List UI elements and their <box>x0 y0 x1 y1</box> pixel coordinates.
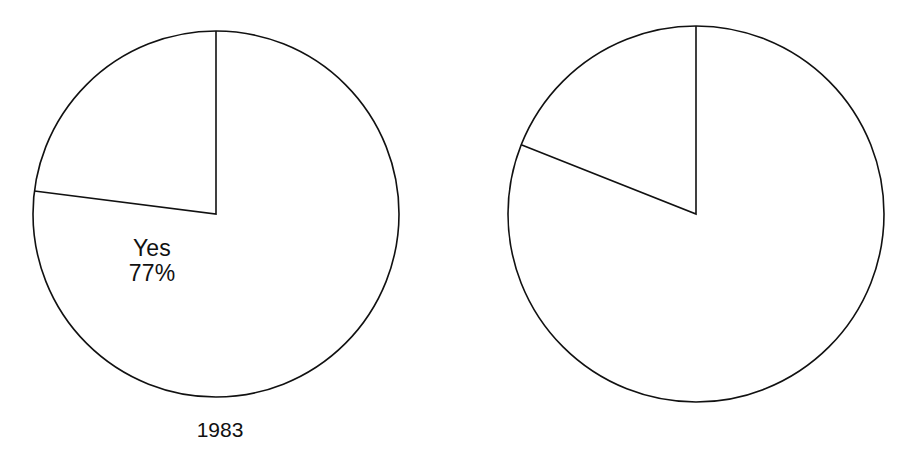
pie-graphic-1986 <box>455 0 909 468</box>
chart-caption-year: 1983 <box>146 418 294 442</box>
pie-chart-figure: Yes 77% 1983 Yes 81% 1986 <box>0 0 909 468</box>
slice-label-name: Yes <box>82 236 222 261</box>
pie-chart-1986: Yes 81% 1986 <box>455 0 909 468</box>
slice-label-value: 77% <box>82 261 222 286</box>
slice-label-yes: Yes 77% <box>82 236 222 286</box>
pie-graphic-1983 <box>0 0 455 468</box>
pie-chart-1983: Yes 77% 1983 <box>0 0 455 468</box>
